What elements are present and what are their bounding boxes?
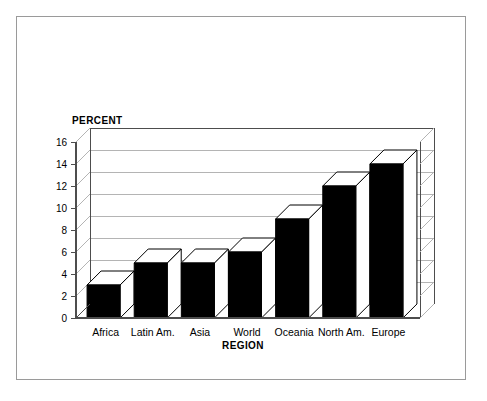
x-tick-label: Africa [92,326,119,338]
bar [229,238,276,318]
bar-front-face [229,252,262,318]
right-wall-rib [420,194,434,208]
y-tick-label: 12 [56,181,68,192]
left-wall-rib [76,194,90,208]
bar [134,249,181,318]
right-wall-rib [420,128,434,142]
right-wall-rib [420,150,434,164]
bar-side-face [403,150,417,318]
x-tick-label: Latin Am. [131,326,175,338]
right-wall-rib [420,238,434,252]
left-wall-rib [76,238,90,252]
chart-figure: PERCENT REGION 0246810121416 AfricaLatin… [0,0,487,401]
left-wall-rib [76,260,90,274]
right-wall-rib [420,282,434,296]
right-wall-rib [420,216,434,230]
x-tick-label: World [233,326,260,338]
bar [276,205,323,318]
bar-front-face [323,186,356,318]
y-tick-label: 0 [61,313,67,324]
bar [87,271,134,318]
x-axis-tick-labels: AfricaLatin Am.AsiaWorldOceaniaNorth Am.… [92,326,405,338]
bar-side-face [309,205,323,318]
y-axis-title: PERCENT [72,115,123,126]
y-tick-label: 8 [61,225,67,236]
left-wall-rib [76,216,90,230]
bar-front-face [370,164,403,318]
right-wall-rib [420,260,434,274]
left-wall-rib [76,128,90,142]
bar-front-face [181,263,214,318]
y-tick-label: 16 [56,137,68,148]
x-tick-label: Oceania [275,326,314,338]
bar-front-face [134,263,167,318]
bar-front-face [87,285,120,318]
x-axis-title: REGION [222,340,264,351]
bars [87,150,417,318]
right-wall-rib [420,172,434,186]
y-tick-label: 6 [61,247,67,258]
plot-area: PERCENT REGION 0246810121416 AfricaLatin… [0,0,487,401]
bar-front-face [276,219,309,318]
bar [323,172,370,318]
left-wall-rib [76,150,90,164]
left-wall-rib [76,172,90,186]
y-tick-label: 10 [56,203,68,214]
right-wall-rib [420,304,434,318]
x-tick-label: Asia [190,326,211,338]
y-tick-label: 14 [56,159,68,170]
x-tick-label: North Am. [318,326,365,338]
bar [181,249,228,318]
bar-chart-3d: PERCENT REGION 0246810121416 AfricaLatin… [0,0,487,401]
y-tick-label: 2 [61,291,67,302]
bar-side-face [356,172,370,318]
y-tick-label: 4 [61,269,67,280]
bar [370,150,417,318]
x-tick-label: Europe [371,326,405,338]
